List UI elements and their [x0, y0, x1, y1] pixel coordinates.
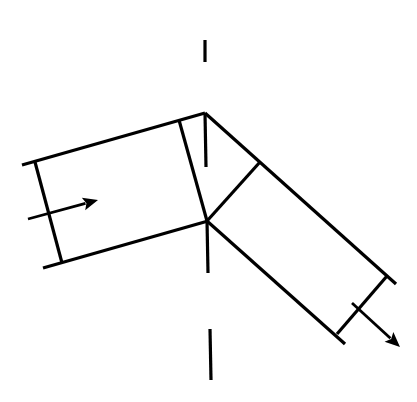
reflected-beam: [205, 113, 400, 347]
reflected-direction-arrow-shaft: [352, 303, 390, 338]
incident-right-wavefront: [179, 120, 207, 221]
center-line-dash-3: [210, 329, 211, 380]
reflected-right-wavefront: [337, 276, 387, 334]
center-line-dash-1: [205, 113, 206, 167]
reflected-top-edge: [205, 113, 396, 284]
reflected-left-wavefront: [207, 162, 260, 221]
reflected-bottom-edge: [207, 221, 345, 344]
incident-beam: [22, 113, 208, 268]
incident-bottom-edge: [43, 221, 208, 268]
incident-top-edge: [22, 113, 205, 165]
center-line: [205, 40, 211, 380]
reflection-diagram: [0, 0, 417, 402]
center-line-dash-2: [207, 220, 208, 273]
incident-direction-arrow-shaft: [28, 203, 85, 219]
